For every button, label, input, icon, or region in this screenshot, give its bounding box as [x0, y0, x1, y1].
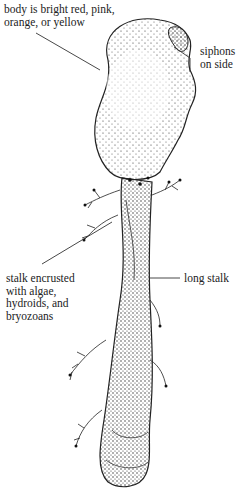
label-line: hydroids, and [6, 297, 75, 310]
ascidian-illustration [0, 0, 240, 494]
label-line: stalk encrusted [6, 272, 75, 285]
label-body-color: body is bright red, pink, orange, or yel… [4, 3, 115, 28]
label-line: body is bright red, pink, [4, 3, 115, 16]
label-line: siphons [200, 45, 235, 58]
label-line: with algae, [6, 285, 75, 298]
label-line: orange, or yellow [4, 16, 115, 29]
label-line: bryozoans [6, 310, 75, 323]
label-long-stalk: long stalk [184, 272, 229, 285]
label-siphons: siphons on side [200, 45, 235, 70]
body-shape [95, 19, 196, 180]
label-line: long stalk [184, 272, 229, 285]
label-line: on side [200, 58, 235, 71]
label-stalk-encrusted: stalk encrusted with algae, hydroids, an… [6, 272, 75, 322]
